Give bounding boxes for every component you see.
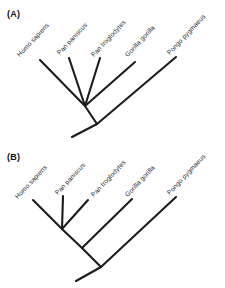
branch-pan-paniscus-b	[62, 196, 63, 229]
panel-a: (A) Homo sapiens Pan paniscus Pan troglo…	[0, 0, 225, 144]
panel-b: (B) Homo sapiens Pan paniscus Pan troglo…	[0, 144, 225, 288]
branch-root-to-polytomy-a	[85, 106, 97, 124]
branch-pan-troglodytes-b	[62, 200, 88, 229]
branch-pongo-pygmaeus-a	[97, 57, 176, 124]
branch-root-stem-a	[72, 124, 97, 137]
branch-homo-sapiens-b	[33, 200, 62, 229]
branch-root-stem-b	[76, 267, 101, 281]
branch-pongo-pygmaeus-b	[101, 197, 176, 267]
cladogram-figure: (A) Homo sapiens Pan paniscus Pan troglo…	[0, 0, 225, 288]
branch-gorilla-gorilla-b	[82, 199, 132, 248]
branch-root-to-african-node-b	[82, 248, 101, 267]
branch-to-pan-clade-b	[62, 229, 82, 248]
